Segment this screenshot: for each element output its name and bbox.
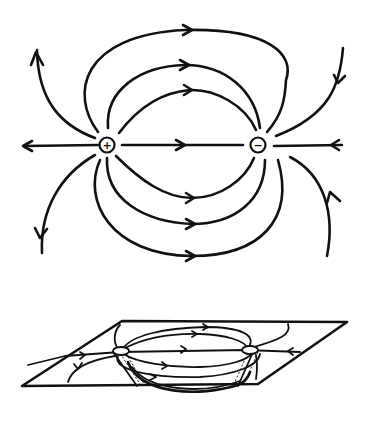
negative-charge-3d [242, 346, 258, 354]
positive-symbol: + [102, 139, 111, 152]
perspective-field-plane [22, 321, 347, 392]
arrow-icon [35, 228, 47, 238]
plane-line-lower-left [68, 356, 115, 382]
plane-line-outer-top-right [254, 324, 289, 347]
positive-charge: + [100, 138, 115, 153]
plane-line-lower-right [256, 355, 257, 379]
field-line-lower-inner [116, 156, 254, 198]
positive-charge-3d [113, 347, 129, 355]
field-line-lower-outer [95, 160, 282, 256]
field-line-lower-right [290, 157, 330, 256]
dipole-diagram: + − [0, 0, 367, 426]
plane-line-outer-top [115, 325, 120, 349]
field-line-upper-left [37, 50, 95, 138]
arrow-icon [181, 346, 186, 353]
negative-symbol: − [253, 139, 262, 152]
field-line-upper-inner [119, 90, 256, 133]
arrow-icon [74, 363, 82, 369]
plane-line-lower-1 [124, 353, 252, 367]
arrow-icon [327, 192, 340, 203]
field-line-axis-left [24, 145, 98, 146]
negative-charge: − [251, 138, 266, 153]
field-line-lower-left [42, 155, 95, 253]
field-line-lower-middle [107, 158, 265, 224]
top-dipole-field: + − [23, 25, 345, 261]
